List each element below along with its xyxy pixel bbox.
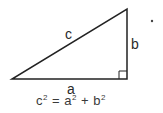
right-triangle bbox=[12, 9, 127, 79]
pythagorean-diagram: c b a c2 = a2 + b2 bbox=[0, 0, 163, 113]
formula-a-exponent: 2 bbox=[72, 93, 77, 102]
formula-c-exponent: 2 bbox=[43, 93, 48, 102]
vertical-leg-label: b bbox=[131, 37, 139, 51]
pythagorean-formula: c2 = a2 + b2 bbox=[36, 93, 106, 108]
formula-b-exponent: 2 bbox=[101, 93, 106, 102]
formula-a: a bbox=[64, 93, 72, 108]
formula-c: c bbox=[36, 93, 43, 108]
right-angle-marker bbox=[119, 71, 127, 79]
stray-dot bbox=[151, 20, 153, 22]
formula-plus: + bbox=[81, 93, 89, 108]
formula-b: b bbox=[93, 93, 101, 108]
formula-equals: = bbox=[52, 93, 60, 108]
hypotenuse-label: c bbox=[65, 27, 72, 41]
